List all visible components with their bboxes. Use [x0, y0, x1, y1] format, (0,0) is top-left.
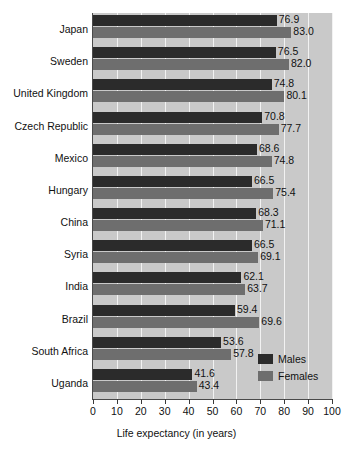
bar-value-label: 76.9: [277, 14, 299, 25]
life-expectancy-bar-chart: 76.983.076.582.074.880.170.877.768.674.8…: [0, 0, 353, 459]
bar-row: 70.877.7: [93, 110, 332, 142]
x-tick-label: 100: [317, 405, 347, 417]
bar-row: 66.575.4: [93, 174, 332, 206]
bar-males: [93, 47, 276, 58]
bar-rows: 76.983.076.582.074.880.170.877.768.674.8…: [93, 13, 332, 399]
bar-females: [93, 188, 273, 199]
bar-row: 59.469.6: [93, 303, 332, 335]
bar-value-label: 66.5: [252, 239, 274, 250]
category-label-india: India: [0, 280, 88, 292]
bar-value-label: 43.4: [197, 380, 219, 391]
category-label-syria: Syria: [0, 248, 88, 260]
bar-males: [93, 79, 272, 90]
bar-males: [93, 240, 252, 251]
category-label-united-kingdom: United Kingdom: [0, 87, 88, 99]
bar-row: 66.569.1: [93, 238, 332, 270]
x-tick: [141, 399, 142, 404]
bar-value-label: 68.6: [257, 143, 279, 154]
plot-area: 76.983.076.582.074.880.170.877.768.674.8…: [93, 13, 332, 399]
bar-females: [93, 284, 245, 295]
bar-value-label: 71.1: [263, 219, 285, 230]
category-label-uganda: Uganda: [0, 377, 88, 389]
bar-row: 68.371.1: [93, 206, 332, 238]
x-tick: [117, 399, 118, 404]
bar-females: [93, 252, 258, 263]
bar-value-label: 69.6: [259, 316, 281, 327]
bar-value-label: 57.8: [231, 348, 253, 359]
category-label-brazil: Brazil: [0, 313, 88, 325]
x-tick: [308, 399, 309, 404]
bar-value-label: 74.8: [272, 78, 294, 89]
bar-females: [93, 91, 284, 102]
y-axis-line: [92, 13, 93, 400]
bar-males: [93, 15, 277, 26]
bar-value-label: 63.7: [245, 283, 267, 294]
legend-swatch-females-icon: [258, 371, 273, 381]
category-label-sweden: Sweden: [0, 55, 88, 67]
legend-label-males: Males: [278, 354, 306, 365]
bar-males: [93, 144, 257, 155]
category-axis-labels: JapanSwedenUnited KingdomCzech RepublicM…: [0, 13, 88, 399]
x-tick: [189, 399, 190, 404]
legend-item-females: Females: [258, 369, 318, 383]
bar-value-label: 41.6: [192, 368, 214, 379]
category-label-hungary: Hungary: [0, 184, 88, 196]
bar-females: [93, 27, 291, 38]
bar-males: [93, 305, 235, 316]
bar-value-label: 62.1: [241, 271, 263, 282]
gridline: [332, 13, 333, 399]
bar-row: 62.163.7: [93, 270, 332, 302]
bar-value-label: 70.8: [262, 111, 284, 122]
bar-females: [93, 59, 289, 70]
x-tick: [93, 399, 94, 404]
bar-males: [93, 369, 192, 380]
bar-males: [93, 272, 241, 283]
bar-value-label: 74.8: [272, 155, 294, 166]
bar-value-label: 69.1: [258, 251, 280, 262]
bar-value-label: 76.5: [276, 46, 298, 57]
x-tick: [332, 399, 333, 404]
bar-females: [93, 381, 197, 392]
category-label-japan: Japan: [0, 23, 88, 35]
bar-males: [93, 176, 252, 187]
bar-row: 74.880.1: [93, 77, 332, 109]
bar-row: 68.674.8: [93, 142, 332, 174]
x-tick: [213, 399, 214, 404]
x-tick: [260, 399, 261, 404]
legend: Males Females: [258, 352, 318, 386]
bar-value-label: 77.7: [279, 123, 301, 134]
bar-value-label: 75.4: [273, 187, 295, 198]
x-tick: [236, 399, 237, 404]
bar-females: [93, 317, 259, 328]
legend-item-males: Males: [258, 352, 318, 366]
bar-males: [93, 208, 256, 219]
bar-row: 76.983.0: [93, 13, 332, 45]
category-label-mexico: Mexico: [0, 152, 88, 164]
bar-value-label: 53.6: [221, 336, 243, 347]
legend-swatch-males-icon: [258, 354, 273, 364]
bar-females: [93, 220, 263, 231]
category-label-china: China: [0, 216, 88, 228]
bar-value-label: 83.0: [291, 26, 313, 37]
bar-males: [93, 337, 221, 348]
bar-females: [93, 124, 279, 135]
category-label-czech-republic: Czech Republic: [0, 120, 88, 132]
bar-females: [93, 349, 231, 360]
bar-females: [93, 156, 272, 167]
bar-value-label: 80.1: [284, 90, 306, 101]
category-label-south-africa: South Africa: [0, 345, 88, 357]
bar-row: 76.582.0: [93, 45, 332, 77]
bar-value-label: 59.4: [235, 304, 257, 315]
bar-males: [93, 112, 262, 123]
bar-value-label: 68.3: [256, 207, 278, 218]
x-tick: [284, 399, 285, 404]
legend-label-females: Females: [278, 371, 318, 382]
x-axis-title: Life expectancy (in years): [0, 427, 353, 439]
bar-value-label: 66.5: [252, 175, 274, 186]
bar-value-label: 82.0: [289, 58, 311, 69]
x-tick: [165, 399, 166, 404]
